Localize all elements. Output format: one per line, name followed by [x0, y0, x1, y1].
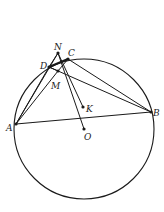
segment-db — [49, 67, 151, 112]
segments — [16, 53, 151, 129]
label-n: N — [53, 42, 63, 52]
label-c: C — [68, 48, 75, 58]
segment-ab — [16, 112, 151, 124]
segment-no — [58, 53, 84, 129]
geometry-diagram: NCDMKABO — [0, 0, 164, 212]
label-d: D — [39, 61, 47, 71]
label-a: A — [5, 123, 13, 133]
label-m: M — [50, 81, 61, 91]
label-k: K — [85, 104, 94, 114]
segment-am — [16, 71, 58, 124]
point-labels: NCDMKABO — [5, 42, 160, 142]
point-k-dot — [81, 105, 84, 108]
label-o: O — [84, 132, 92, 142]
segment-ad — [16, 67, 49, 124]
label-b: B — [152, 108, 160, 118]
point-d-dot — [47, 65, 50, 68]
point-m-dot — [56, 69, 59, 72]
point-o-dot — [82, 127, 85, 130]
point-a-dot — [14, 122, 17, 125]
circle-diagram-svg: NCDMKABO — [0, 0, 164, 212]
